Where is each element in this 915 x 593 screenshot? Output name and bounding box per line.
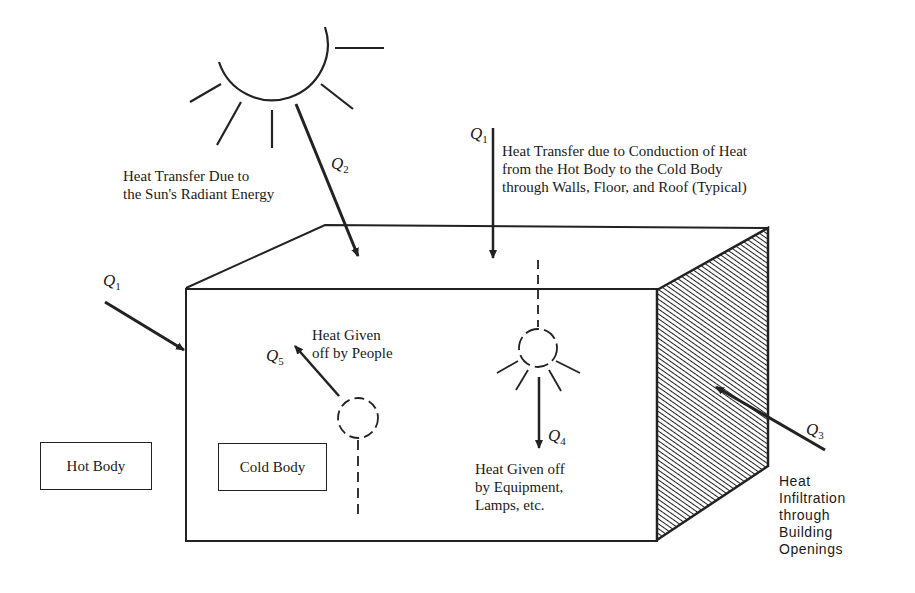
cold-body-box: Cold Body <box>218 443 327 491</box>
q5-label: Heat Given off by People <box>312 326 393 362</box>
cold-body-label: Cold Body <box>240 459 305 476</box>
hot-body-label: Hot Body <box>67 458 126 475</box>
q1-left-arrow <box>105 302 184 350</box>
q5-symbol: Q5 <box>266 346 284 367</box>
hot-body-box: Hot Body <box>40 442 152 490</box>
q4-label: Heat Given off by Equipment, Lamps, etc. <box>475 460 565 514</box>
q1-left-symbol: Q1 <box>103 271 121 292</box>
sun-icon <box>190 27 384 148</box>
q4-symbol: Q4 <box>548 426 566 447</box>
diagram-drawing <box>0 0 915 593</box>
heat-transfer-diagram: Heat Transfer Due to the Sun's Radiant E… <box>0 0 915 593</box>
hatched-wall-openings <box>657 228 768 540</box>
person-icon <box>338 398 378 516</box>
q2-symbol: Q2 <box>331 154 349 175</box>
q3-label: Heat Infiltration through Building Openi… <box>779 473 846 558</box>
q1-top-symbol: Q1 <box>470 124 488 145</box>
q1-top-label: Heat Transfer due to Conduction of Heat … <box>502 142 747 196</box>
lamp-icon <box>497 260 580 391</box>
q2-label: Heat Transfer Due to the Sun's Radiant E… <box>123 167 274 203</box>
q3-symbol: Q3 <box>806 420 824 441</box>
